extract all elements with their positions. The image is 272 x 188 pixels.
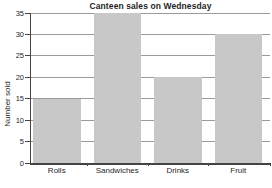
bar-fruit [215,34,263,163]
x-category-label-fruit: Fruit [215,166,263,175]
y-tick-label-15: 15 [0,94,24,103]
bar-series [31,13,270,163]
bar-sandwiches [94,13,142,163]
x-axis-line [30,163,271,165]
x-tick-mark-2 [148,163,149,166]
y-tick-label-35: 35 [0,9,24,18]
y-tick-label-10: 10 [0,116,24,125]
chart-title: Canteen sales on Wednesday [31,1,270,11]
y-tick-label-5: 5 [0,137,24,146]
bar-drinks [154,77,202,163]
y-axis-line [30,13,32,165]
x-axis-category-labels: RollsSandwichesDrinksFruit [31,166,270,175]
y-tick-label-20: 20 [0,73,24,82]
y-tick-label-0: 0 [0,159,24,168]
x-category-label-sandwiches: Sandwiches [94,166,142,175]
x-tick-mark-4 [270,163,271,166]
x-tick-mark-3 [208,163,209,166]
bar-rolls [33,99,81,163]
x-category-label-rolls: Rolls [33,166,81,175]
x-tick-mark-1 [87,163,88,166]
y-tick-label-25: 25 [0,51,24,60]
y-tick-label-30: 30 [0,30,24,39]
x-category-label-drinks: Drinks [154,166,202,175]
plot-area [31,13,270,163]
bar-chart: Canteen sales on Wednesday Number sold 0… [0,0,272,188]
